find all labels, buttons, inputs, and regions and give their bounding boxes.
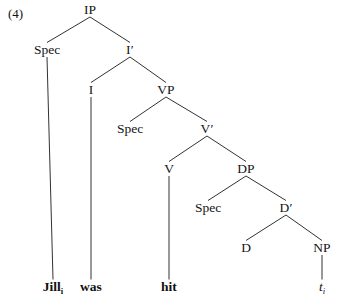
tree-branch-ip-ibar [90,17,130,43]
tree-branch-dbar-d [246,215,286,241]
tree-node-np: NP [313,240,330,255]
tree-terminal-t-was: was [80,279,102,294]
tree-node-specdp: Spec [195,200,221,215]
example-number: (4) [8,6,23,21]
tree-terminal-layer: Jilliwashitti [43,279,326,296]
tree-branch-ibar-i [91,57,130,83]
tree-node-dp: DP [237,161,254,176]
syntax-tree-canvas: IPSpecI′IVPSpecV′VDPSpecD′DNP Jilliwashi… [0,0,340,303]
tree-branch-vp-specvp [130,97,166,122]
tree-node-v: V [164,161,174,176]
tree-node-d: D [241,240,251,255]
subscript-t-jill: i [61,286,64,296]
tree-node-ibar: I′ [126,42,134,57]
tree-node-i: I [89,82,94,97]
tree-node-dbar: D′ [279,200,292,215]
tree-node-layer: IPSpecI′IVPSpecV′VDPSpecD′DNP [34,2,331,255]
tree-branch-specip-t-jill [47,57,53,280]
tree-node-vbar: V′ [200,121,213,136]
syntax-tree-figure: IPSpecI′IVPSpecV′VDPSpecD′DNP Jilliwashi… [0,0,340,303]
tree-branch-dbar-np [286,215,322,241]
tree-branch-vp-vbar [166,97,207,122]
tree-terminal-t-hit: hit [161,279,177,294]
tree-node-specip: Spec [34,42,60,57]
tree-branch-ibar-vp [130,57,166,83]
tree-edge-layer [47,17,322,280]
tree-terminal-t-trace: ti [319,279,326,296]
tree-branch-dp-dbar [246,176,286,201]
tree-branch-vbar-dp [207,136,246,162]
tree-node-ip: IP [84,2,96,17]
tree-branch-dp-specdp [208,176,246,201]
tree-node-vp: VP [157,82,174,97]
tree-branch-vbar-v [169,136,207,162]
tree-node-specvp: Spec [117,121,143,136]
tree-branch-ip-specip [47,17,90,43]
tree-terminal-t-jill: Jilli [43,279,64,296]
subscript-t-trace: i [323,286,326,296]
